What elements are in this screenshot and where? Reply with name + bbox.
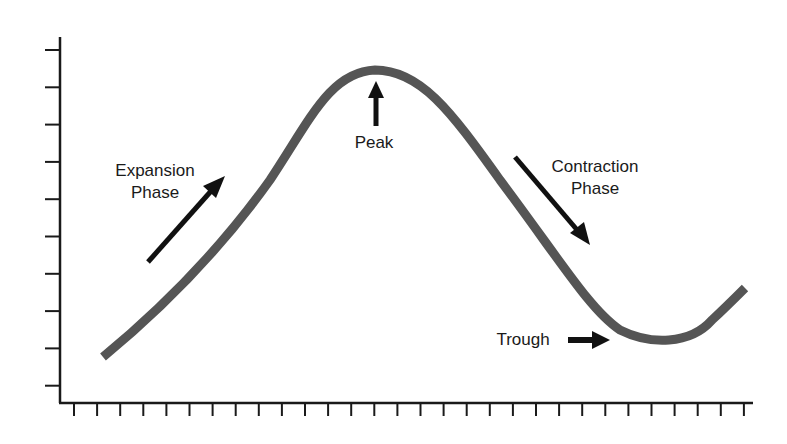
trough-arrow-icon xyxy=(568,331,610,349)
contraction-label-line1: Contraction xyxy=(540,156,650,178)
contraction-phase-label: Contraction Phase xyxy=(540,156,650,200)
peak-arrow-icon xyxy=(368,81,384,126)
trough-label: Trough xyxy=(490,329,556,351)
peak-label: Peak xyxy=(344,132,404,154)
y-axis-ticks xyxy=(45,50,60,386)
axes xyxy=(59,37,753,403)
business-cycle-diagram xyxy=(0,0,787,444)
expansion-phase-label: Expansion Phase xyxy=(105,160,205,204)
contraction-label-line2: Phase xyxy=(540,178,650,200)
expansion-label-line2: Phase xyxy=(105,182,205,204)
x-axis-ticks xyxy=(74,403,744,416)
cycle-curve xyxy=(103,70,745,357)
expansion-label-line1: Expansion xyxy=(105,160,205,182)
